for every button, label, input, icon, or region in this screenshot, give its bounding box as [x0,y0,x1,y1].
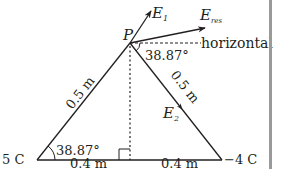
e1-label: E1 [151,4,168,23]
right-charge-label: −4 C [224,152,257,167]
eres-label: Eres [199,6,222,25]
right-border-line [269,0,272,169]
base-left-length-label: 0.4 m [70,156,107,169]
right-side-length-label: 0.5 m [168,68,203,106]
e1-vector-arrow [130,11,151,43]
left-charge-label: 5 C [2,152,24,167]
right-angle-marker [119,149,130,160]
base-angle-arc [48,146,55,160]
point-p-label: P [122,26,134,44]
base-right-length-label: 0.4 m [161,156,198,169]
top-angle-arc [136,43,140,51]
electric-field-diagram: P E1 Eres horizontal 38.87° 0.5 m 0.5 m … [0,0,281,169]
e2-label: E2 [162,104,179,123]
eres-vector-arrow [130,28,205,43]
top-angle-label: 38.87° [145,48,189,63]
horizontal-label: horizontal [201,35,273,51]
